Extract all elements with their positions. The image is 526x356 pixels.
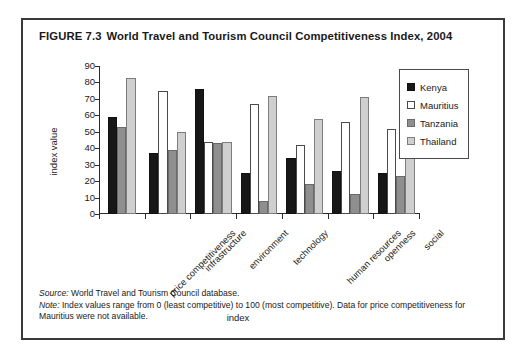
bar-thailand — [314, 119, 323, 214]
legend-item-label: Mauritius — [420, 100, 459, 111]
legend-item-kenya[interactable]: Kenya — [407, 79, 459, 95]
bar-thailand — [268, 96, 277, 214]
y-tick-label: 70 — [84, 94, 95, 104]
y-tick-label: 60 — [84, 111, 95, 121]
y-tick-label: 90 — [84, 61, 95, 71]
bar-thailand — [126, 78, 135, 214]
bar-mauritius — [341, 122, 350, 214]
y-tick-label: 50 — [84, 127, 95, 137]
page-title: FIGURE 7.3World Travel and Tourism Counc… — [39, 30, 452, 42]
x-tick-mark — [99, 214, 100, 219]
x-category-label: technology — [291, 228, 330, 267]
legend-swatch-icon — [407, 137, 415, 145]
bar-tanzania — [350, 194, 359, 214]
figure-container: FIGURE 7.3World Travel and Tourism Counc… — [21, 18, 505, 340]
x-category-label: social — [422, 228, 446, 252]
bar-kenya — [241, 173, 250, 214]
source-text: World Travel and Tourism Council databas… — [69, 288, 240, 298]
bar-kenya — [378, 173, 387, 214]
bar-mauritius — [296, 145, 305, 214]
x-tick-mark — [328, 214, 329, 219]
y-axis-tick-labels: 0102030405060708090 — [75, 66, 95, 214]
chart-axes: 0102030405060708090 — [99, 66, 419, 214]
legend-item-mauritius[interactable]: Mauritius — [407, 97, 459, 113]
x-tick-mark — [419, 214, 420, 219]
bar-mauritius — [204, 142, 213, 214]
bar-tanzania — [117, 127, 126, 214]
legend-swatch-icon — [407, 119, 415, 127]
x-tick-mark — [373, 214, 374, 219]
figure-number: FIGURE 7.3 — [39, 30, 102, 42]
bar-thailand — [360, 97, 369, 214]
bar-tanzania — [396, 176, 405, 214]
x-category-label: environment — [247, 228, 290, 271]
bar-mauritius — [250, 104, 259, 214]
legend-swatch-icon — [407, 83, 415, 91]
y-tick-label: 40 — [84, 143, 95, 153]
note-text: Index values range from 0 (least competi… — [39, 300, 465, 322]
bar-mauritius — [387, 129, 396, 215]
explanatory-note: Note: Index values range from 0 (least c… — [39, 300, 490, 323]
bar-tanzania — [213, 143, 222, 214]
bar-series-layer — [99, 66, 419, 214]
source-note: Source: World Travel and Tourism Council… — [39, 288, 490, 300]
bar-kenya — [286, 158, 295, 214]
y-axis-title: index value — [48, 97, 59, 207]
y-tick-label: 20 — [84, 176, 95, 186]
bar-mauritius — [158, 91, 167, 214]
x-tick-mark — [145, 214, 146, 219]
bar-kenya — [332, 171, 341, 214]
figure-title-text: World Travel and Tourism Council Competi… — [107, 30, 453, 42]
bar-tanzania — [305, 184, 314, 214]
legend-item-label: Thailand — [420, 136, 456, 147]
bar-tanzania — [259, 201, 268, 214]
legend-item-label: Kenya — [420, 82, 447, 93]
x-axis-tick-marks — [99, 214, 420, 219]
legend-item-tanzania[interactable]: Tanzania — [407, 115, 459, 131]
bar-kenya — [195, 89, 204, 214]
bar-thailand — [177, 132, 186, 214]
bar-tanzania — [168, 150, 177, 214]
x-tick-mark — [190, 214, 191, 219]
bar-thailand — [222, 142, 231, 214]
legend-swatch-icon — [407, 101, 415, 109]
y-tick-label: 80 — [84, 78, 95, 88]
y-tick-label: 30 — [84, 160, 95, 170]
bar-kenya — [108, 117, 117, 214]
note-label: Note: — [39, 300, 60, 310]
bar-kenya — [149, 153, 158, 214]
chart-legend: KenyaMauritiusTanzaniaThailand — [399, 69, 469, 159]
x-tick-mark — [236, 214, 237, 219]
legend-item-thailand[interactable]: Thailand — [407, 133, 459, 149]
source-label: Source: — [39, 288, 69, 298]
y-tick-label: 10 — [84, 193, 95, 203]
figure-notes: Source: World Travel and Tourism Council… — [39, 288, 490, 323]
x-tick-mark — [282, 214, 283, 219]
legend-item-label: Tanzania — [420, 118, 458, 129]
